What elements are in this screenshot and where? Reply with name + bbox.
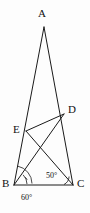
angle-arc-50-at-B bbox=[23, 175, 27, 184]
angle-label-50: 50° bbox=[46, 172, 57, 180]
angle-arc-60 bbox=[18, 166, 32, 183]
angle-label-60: 60° bbox=[21, 194, 32, 202]
geometry-figure: A B C D E 50° 60° bbox=[0, 0, 90, 213]
vertex-label-E: E bbox=[13, 124, 20, 135]
segment-side-AB bbox=[14, 27, 44, 185]
vertex-label-C: C bbox=[77, 178, 84, 189]
vertex-label-A: A bbox=[38, 8, 46, 19]
vertex-label-D: D bbox=[68, 104, 76, 115]
vertex-label-B: B bbox=[2, 178, 9, 189]
